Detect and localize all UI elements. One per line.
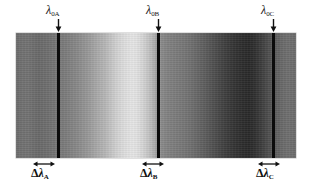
pointer-arrow-a-icon: [53, 19, 64, 32]
pointer-arrow-c-icon: [268, 19, 279, 32]
lambda-sub-c: 0C: [266, 10, 274, 18]
absorption-line-b: [157, 33, 160, 158]
absorption-line-c: [272, 33, 275, 158]
label-lambda-0b: λ0B: [146, 3, 159, 18]
delta-glyph-b: Δ: [140, 166, 148, 180]
delta-sub-c: C: [269, 173, 274, 181]
delta-glyph-a: Δ: [31, 166, 39, 180]
absorption-line-a: [57, 33, 60, 158]
lambda-sub-a: 0A: [51, 10, 59, 18]
delta-sub-a: A: [44, 173, 49, 181]
lambda-sub-b: 0B: [151, 10, 159, 18]
label-lambda-0c: λ0C: [261, 3, 274, 18]
delta-sub-b: B: [153, 173, 158, 181]
label-delta-lambda-b: ΔλB: [140, 166, 158, 181]
spectrum-figure: λ0A λ0B λ0C ΔλA ΔλB ΔλC: [0, 0, 311, 187]
label-delta-lambda-c: ΔλC: [256, 166, 274, 181]
pointer-arrow-b-icon: [153, 19, 164, 32]
label-lambda-0a: λ0A: [46, 3, 59, 18]
delta-glyph-c: Δ: [256, 166, 264, 180]
label-delta-lambda-a: ΔλA: [31, 166, 49, 181]
